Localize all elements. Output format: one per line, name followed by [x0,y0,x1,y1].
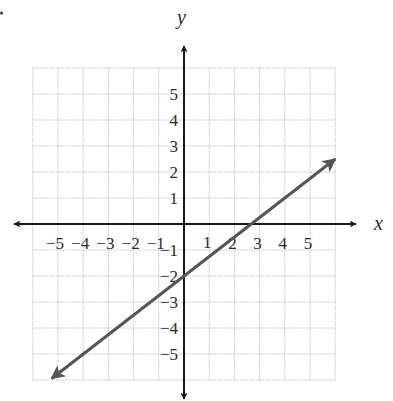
y-tick-label: 5 [170,85,179,104]
y-tick-label: −3 [160,293,178,312]
y-tick-label: 2 [170,163,179,182]
x-tick-label: −2 [122,234,140,253]
x-tick-label: −4 [71,234,90,253]
x-tick-label: 5 [304,234,313,253]
x-tick-label: −3 [96,234,114,253]
stray-dot [0,12,3,15]
x-axis-label: x [373,212,383,234]
graphed-line [52,159,336,378]
y-tick-label: −1 [160,241,178,260]
y-axis-label: y [175,6,186,29]
x-tick-label: −5 [46,234,64,253]
x-tick-label: 1 [203,233,212,252]
x-tick-label: 4 [279,234,288,253]
y-tick-label: 3 [170,137,179,156]
y-tick-label: 4 [170,111,179,130]
y-tick-label: −4 [160,319,179,338]
y-tick-label: 1 [170,189,179,208]
y-tick-label: −5 [160,345,178,364]
coordinate-plane: x y −5−4−3−2−112345 54321−1−2−3−4−5 [0,0,393,401]
x-tick-label: 3 [253,234,262,253]
